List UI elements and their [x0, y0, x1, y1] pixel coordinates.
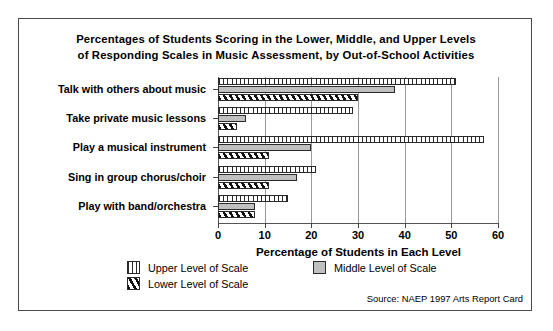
- x-tick-label-50: 50: [445, 229, 457, 241]
- bar-group: [218, 135, 498, 164]
- vertical-hatch-swatch-icon: [127, 261, 140, 274]
- figure-frame: Percentages of Students Scoring in the L…: [18, 18, 532, 311]
- legend-label-upper: Upper Level of Scale: [148, 262, 248, 274]
- x-tick-label-30: 30: [352, 229, 364, 241]
- category-label: Take private music lessons: [66, 112, 206, 124]
- bar-middle: [218, 86, 395, 93]
- tickmark-50: [451, 223, 452, 228]
- bar-group: [218, 194, 498, 223]
- category-tickmark: [213, 89, 218, 90]
- gridline-60: [498, 77, 499, 223]
- bar-upper: [218, 107, 353, 114]
- category-tickmark: [213, 177, 218, 178]
- tickmark-20: [311, 223, 312, 228]
- bar-upper: [218, 166, 316, 173]
- bar-upper: [218, 78, 456, 85]
- tickmark-0: [218, 223, 219, 228]
- legend-entry-middle: Middle Level of Scale: [313, 261, 437, 274]
- plot-area: 0102030405060 Talk with others about mus…: [218, 77, 498, 223]
- category-tickmark: [213, 206, 218, 207]
- tickmark-10: [265, 223, 266, 228]
- x-tick-label-10: 10: [259, 229, 271, 241]
- category-tickmark: [213, 147, 218, 148]
- category-label: Sing in group chorus/choir: [68, 171, 206, 183]
- bar-middle: [218, 115, 246, 122]
- legend-label-middle: Middle Level of Scale: [334, 262, 437, 274]
- category-label: Play with band/orchestra: [78, 200, 206, 212]
- legend-label-lower: Lower Level of Scale: [148, 278, 248, 290]
- source-note: Source: NAEP 1997 Arts Report Card: [367, 293, 523, 304]
- chart-title-line-2: of Responding Scales in Music Assessment…: [31, 47, 521, 63]
- diagonal-hatch-swatch-icon: [127, 277, 140, 290]
- bar-group: [218, 77, 498, 106]
- chart-legend: Upper Level of Scale Lower Level of Scal…: [127, 261, 487, 293]
- chart-title-line-1: Percentages of Students Scoring in the L…: [31, 31, 521, 47]
- bar-upper: [218, 136, 484, 143]
- category-label: Play a musical instrument: [73, 141, 206, 153]
- bar-group: [218, 165, 498, 194]
- x-tick-label-40: 40: [399, 229, 411, 241]
- bar-group: [218, 106, 498, 135]
- legend-entry-lower: Lower Level of Scale: [127, 277, 248, 290]
- gray-fill-swatch-icon: [313, 261, 326, 274]
- bar-lower: [218, 152, 269, 159]
- legend-entry-upper: Upper Level of Scale: [127, 261, 248, 274]
- tickmark-60: [498, 223, 499, 228]
- tickmark-30: [358, 223, 359, 228]
- x-tick-label-60: 60: [492, 229, 504, 241]
- bar-middle: [218, 203, 255, 210]
- category-tickmark: [213, 118, 218, 119]
- chart-title: Percentages of Students Scoring in the L…: [31, 31, 521, 63]
- bar-middle: [218, 144, 311, 151]
- bar-lower: [218, 182, 269, 189]
- bar-upper: [218, 195, 288, 202]
- category-label: Talk with others about music: [58, 83, 206, 95]
- bar-lower: [218, 94, 358, 101]
- x-tick-label-20: 20: [305, 229, 317, 241]
- bar-lower: [218, 211, 255, 218]
- bar-lower: [218, 123, 237, 130]
- bar-middle: [218, 174, 297, 181]
- x-axis-title: Percentage of Students in Each Level: [218, 246, 499, 258]
- tickmark-40: [405, 223, 406, 228]
- x-tick-label-0: 0: [215, 229, 221, 241]
